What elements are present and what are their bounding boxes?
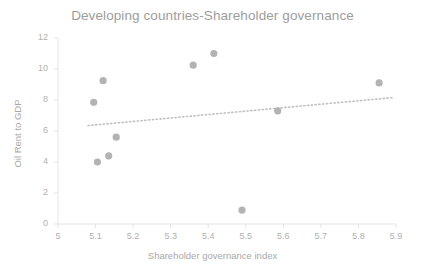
x-tick-label: 5.7: [306, 231, 336, 241]
data-point[interactable]: [238, 206, 245, 213]
data-point[interactable]: [94, 158, 101, 165]
data-point[interactable]: [90, 99, 97, 106]
x-tick-label: 5.1: [81, 231, 111, 241]
data-point[interactable]: [99, 77, 106, 84]
y-tick-label: 6: [26, 125, 48, 135]
x-tick-label: 5.5: [231, 231, 261, 241]
y-axis-title: Oil Rent to GDP: [12, 74, 23, 194]
trendline: [88, 98, 392, 126]
data-points: [90, 50, 383, 214]
y-tick-label: 4: [26, 156, 48, 166]
x-tick-label: 5.2: [118, 231, 148, 241]
x-axis-title: Shareholder governance index: [0, 250, 425, 261]
trendline-path: [88, 98, 392, 126]
y-tick-label: 0: [26, 218, 48, 228]
data-point[interactable]: [210, 50, 217, 57]
x-tick-label: 5.6: [268, 231, 298, 241]
scatter-chart: Developing countries-Shareholder governa…: [0, 0, 425, 276]
data-point[interactable]: [190, 62, 197, 69]
y-tick-marks: [54, 38, 58, 224]
data-point[interactable]: [274, 107, 281, 114]
data-point[interactable]: [113, 134, 120, 141]
x-tick-label: 5: [43, 231, 73, 241]
x-tick-marks: [58, 224, 396, 228]
data-point[interactable]: [376, 79, 383, 86]
x-tick-label: 5.3: [156, 231, 186, 241]
axis-lines: [58, 38, 396, 224]
y-tick-label: 12: [26, 32, 48, 42]
x-tick-label: 5.4: [193, 231, 223, 241]
y-tick-label: 10: [26, 63, 48, 73]
y-tick-label: 2: [26, 187, 48, 197]
x-tick-label: 5.8: [343, 231, 373, 241]
y-tick-label: 8: [26, 94, 48, 104]
x-tick-label: 5.9: [381, 231, 411, 241]
data-point[interactable]: [105, 152, 112, 159]
